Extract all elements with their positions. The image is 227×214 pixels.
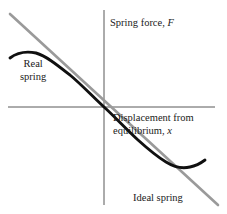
real-spring-label-line1: Real [24,58,43,69]
plot-area [0,0,227,214]
ideal-spring-label: Ideal spring [133,192,183,205]
spring-force-displacement-figure: Spring force, F Displacement fromequilib… [0,0,227,214]
real-spring-label: Realspring [20,57,46,83]
x-axis-label: Displacement fromequilibrium, x [113,112,194,137]
x-axis-label-line2: equilibrium, [113,125,167,136]
y-axis-label-text: Spring force, [110,17,167,28]
y-axis-symbol: F [167,17,173,28]
ideal-spring-line [10,14,218,205]
real-spring-label-line2: spring [20,71,46,82]
x-axis-symbol: x [167,125,172,136]
y-axis-label: Spring force, F [110,17,174,30]
x-axis-label-line1: Displacement from [113,112,194,123]
